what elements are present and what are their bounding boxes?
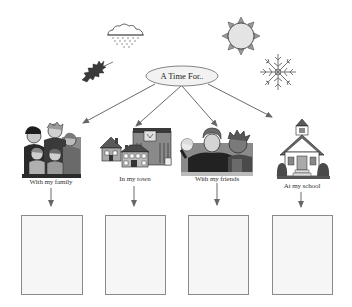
branch-label-friends: With my friends bbox=[195, 175, 239, 183]
school-picture bbox=[277, 119, 330, 179]
branch-label-school: At my school bbox=[284, 182, 321, 190]
rain-cloud-icon bbox=[107, 24, 144, 48]
answer-box-friends[interactable] bbox=[188, 215, 249, 295]
branch-arrow-friends bbox=[182, 86, 217, 126]
branch-label-town: In my town bbox=[119, 175, 150, 183]
family-picture bbox=[22, 122, 81, 178]
sun-icon bbox=[222, 17, 260, 55]
answer-box-family[interactable] bbox=[21, 215, 83, 295]
snowflake-icon bbox=[260, 54, 296, 90]
friends-picture bbox=[181, 128, 253, 176]
branch-label-family: With my family bbox=[29, 178, 72, 186]
branch-arrow-school bbox=[208, 84, 272, 117]
autumn-leaf-icon bbox=[82, 61, 113, 82]
answer-box-town[interactable] bbox=[105, 215, 166, 295]
answer-box-school[interactable] bbox=[272, 215, 333, 295]
branch-arrow-family bbox=[83, 84, 155, 123]
town-picture bbox=[100, 128, 171, 167]
branch-arrow-town bbox=[136, 86, 181, 126]
topic-title: A Time For.. bbox=[161, 71, 204, 81]
